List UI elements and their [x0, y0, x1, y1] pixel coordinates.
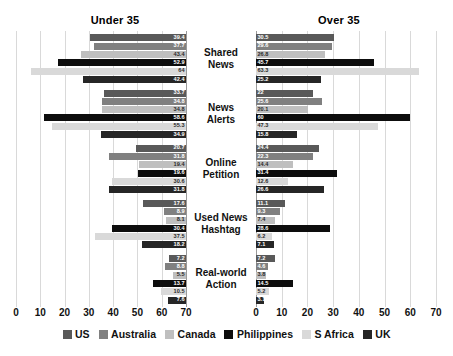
bar-canada: 3.8 [256, 272, 266, 279]
bar-value-label: 19.4 [172, 162, 186, 168]
x-tick-left: 50 [132, 307, 143, 318]
category-label-line: Shared [186, 47, 256, 59]
bar-s-africa: 37.5 [95, 233, 186, 240]
bar-us: 17.6 [143, 200, 186, 207]
bar-australia: 8.9 [164, 208, 186, 215]
bar-philippines: 30.4 [112, 225, 186, 232]
legend-swatch-icon [363, 330, 372, 339]
category-label-real-world-action: Real-worldAction [186, 267, 256, 291]
bar-value-label: 30.6 [172, 179, 186, 185]
category-label-line: Used News [186, 212, 256, 224]
bar-canada: 26.8 [256, 51, 325, 58]
legend-swatch-icon [165, 330, 174, 339]
gridline [436, 31, 437, 307]
bar-value-label: 25.2 [256, 77, 270, 83]
bar-group-shared-news: 39.437.743.452.96442.4 [16, 34, 186, 83]
category-label-line: Alerts [186, 114, 256, 126]
legend-item-philippines[interactable]: Philippines [224, 328, 293, 340]
bar-value-label: 58.6 [172, 115, 186, 121]
bar-value-label: 31.8 [172, 187, 186, 193]
bar-australia: 25.6 [256, 98, 322, 105]
legend-label: Philippines [237, 328, 293, 340]
plot-area-under35: 39.437.743.452.96442.433.734.834.858.655… [16, 31, 186, 307]
bar-us: 30.5 [256, 34, 334, 41]
x-tick-right: 60 [405, 307, 416, 318]
legend-item-uk[interactable]: UK [363, 328, 391, 340]
bar-value-label: 26.8 [256, 52, 270, 58]
bar-us: 11.1 [256, 200, 285, 207]
bar-philippines: 45.7 [256, 59, 374, 66]
bar-group-real-world-action: 7.24.63.814.55.23.1 [256, 255, 436, 304]
bar-philippines: 13.7 [153, 280, 186, 287]
bar-canada: 19.4 [139, 161, 186, 168]
x-tick-left: 10 [35, 307, 46, 318]
bar-value-label: 30.4 [172, 226, 186, 232]
bar-value-label: 33.7 [172, 90, 186, 96]
bar-group-news-alerts: 2225.620.16047.315.8 [256, 90, 436, 139]
category-label-online-petition: OnlinePetition [186, 157, 256, 181]
legend-label: S Africa [315, 328, 354, 340]
bar-s-africa: 55.3 [52, 123, 186, 130]
bar-philippines: 28.6 [256, 225, 330, 232]
bar-value-label: 29.6 [256, 43, 270, 49]
legend-item-s-africa[interactable]: S Africa [302, 328, 354, 340]
x-tick-left: 60 [156, 307, 167, 318]
bar-philippines: 19.6 [138, 170, 186, 177]
plot-area-over35: 30.529.626.845.763.325.22225.620.16047.3… [256, 31, 436, 307]
legend-label: US [75, 328, 90, 340]
bar-group-online-petition: 20.731.819.419.630.631.8 [16, 145, 186, 194]
bar-us: 24.4 [256, 145, 319, 152]
bar-uk: 7.6 [168, 297, 186, 304]
category-label-line: Real-world [186, 267, 256, 279]
bar-uk: 15.8 [256, 131, 297, 138]
x-tick-right: 40 [353, 307, 364, 318]
bar-australia: 4.6 [256, 263, 268, 270]
legend-item-canada[interactable]: Canada [165, 328, 215, 340]
bar-uk: 42.4 [83, 76, 186, 83]
legend-swatch-icon [302, 330, 311, 339]
bar-value-label: 24.4 [256, 145, 270, 151]
bar-value-label: 3.1 [256, 297, 267, 303]
bar-value-label: 8.8 [175, 264, 186, 270]
legend-item-australia[interactable]: Australia [99, 328, 156, 340]
bar-group-online-petition: 24.422.314.431.412.626.6 [256, 145, 436, 194]
bar-value-label: 4.6 [256, 264, 267, 270]
bar-uk: 26.6 [256, 186, 324, 193]
legend-item-us[interactable]: US [63, 328, 90, 340]
bar-value-label: 52.9 [172, 60, 186, 66]
bar-uk: 3.1 [256, 297, 264, 304]
bar-value-label: 14.4 [256, 162, 270, 168]
x-tick-right: 30 [328, 307, 339, 318]
bar-uk: 7.1 [256, 241, 274, 248]
bar-value-label: 12.6 [256, 179, 270, 185]
bar-s-africa: 6.2 [256, 233, 272, 240]
bar-value-label: 6.2 [256, 234, 267, 240]
bar-australia: 22.3 [256, 153, 313, 160]
bar-value-label: 10.5 [172, 289, 186, 295]
bar-group-real-world-action: 7.28.85.513.710.57.6 [16, 255, 186, 304]
bar-value-label: 22.3 [256, 154, 270, 160]
bar-s-africa: 47.3 [256, 123, 378, 130]
bar-value-label: 25.6 [256, 99, 270, 105]
bar-value-label: 7.4 [256, 217, 267, 223]
bar-value-label: 8.9 [175, 209, 186, 215]
chart-root: Under 35 Over 35 39.437.743.452.96442.43… [0, 0, 453, 356]
bar-philippines: 52.9 [58, 59, 186, 66]
category-label-line: Petition [186, 169, 256, 181]
bar-value-label: 14.5 [256, 281, 270, 287]
bar-value-label: 45.7 [256, 60, 270, 66]
bar-value-label: 8.1 [175, 217, 186, 223]
bar-value-label: 34.8 [172, 107, 186, 113]
bar-value-label: 60 [256, 115, 265, 121]
bar-value-label: 7.2 [256, 256, 267, 262]
x-tick-left: 20 [59, 307, 70, 318]
bar-australia: 37.7 [94, 43, 186, 50]
bar-value-label: 37.7 [172, 43, 186, 49]
legend-label: Canada [178, 328, 216, 340]
bar-uk: 25.2 [256, 76, 321, 83]
bar-value-label: 37.5 [172, 234, 186, 240]
bar-value-label: 55.3 [172, 123, 186, 129]
bar-value-label: 19.6 [172, 170, 186, 176]
bar-value-label: 18.2 [172, 242, 186, 248]
x-tick-right: 20 [302, 307, 313, 318]
